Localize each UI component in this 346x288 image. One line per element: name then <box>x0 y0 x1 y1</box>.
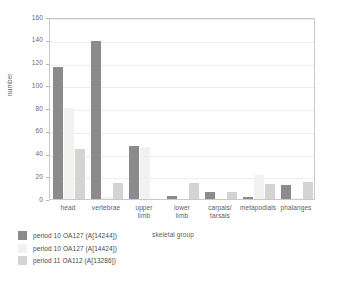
legend-swatch <box>18 231 27 240</box>
y-axis-tick-mark <box>46 18 49 19</box>
bar <box>113 183 123 199</box>
y-axis-tick-label: 160 <box>15 15 43 22</box>
y-axis-title: number <box>6 73 13 96</box>
legend-swatch <box>18 244 27 253</box>
y-axis-tick-label: 60 <box>15 128 43 135</box>
y-axis-tick-mark <box>46 155 49 156</box>
y-axis-tick-label: 120 <box>15 60 43 67</box>
legend-label: period 10 OA127 (A[14244]) <box>33 232 117 239</box>
y-axis-tick-mark <box>46 109 49 110</box>
bar <box>281 185 291 199</box>
bar <box>140 147 150 199</box>
bar <box>64 108 74 199</box>
bar <box>205 192 215 199</box>
x-axis-category-label: upperlimb <box>125 204 163 219</box>
y-axis-tick-mark <box>46 86 49 87</box>
bar <box>91 41 101 199</box>
y-axis-tick-label: 0 <box>15 197 43 204</box>
y-axis-tick-mark <box>46 132 49 133</box>
y-axis-tick-label: 140 <box>15 37 43 44</box>
bar-group <box>88 19 126 199</box>
legend-label: period 11 OA112 (A[13286]) <box>33 257 116 264</box>
bar-group <box>278 19 316 199</box>
bar <box>102 197 112 199</box>
legend-item[interactable]: period 11 OA112 (A[13286]) <box>18 256 117 265</box>
bar <box>189 183 199 199</box>
chart-legend: period 10 OA127 (A[14244])period 10 OA12… <box>18 231 117 265</box>
bar-group <box>240 19 278 199</box>
y-axis-tick-mark <box>46 177 49 178</box>
x-axis-category-label: phalanges <box>277 204 315 212</box>
bar-group <box>202 19 240 199</box>
bar <box>243 197 253 199</box>
x-axis-category-label: lowerlimb <box>163 204 201 219</box>
bar <box>254 175 264 199</box>
y-axis-tick-mark <box>46 41 49 42</box>
bar-group <box>50 19 88 199</box>
legend-item[interactable]: period 10 OA127 (A[14424]) <box>18 244 117 253</box>
x-axis-category-label: carpals/tarsals <box>201 204 239 219</box>
bar <box>167 196 177 199</box>
plot-area <box>49 18 315 200</box>
legend-item[interactable]: period 10 OA127 (A[14244]) <box>18 231 117 240</box>
bar <box>303 182 313 199</box>
bar-group <box>164 19 202 199</box>
y-axis-tick-mark <box>46 64 49 65</box>
bar <box>265 184 275 199</box>
bar <box>227 192 237 199</box>
bar <box>53 67 63 199</box>
bar-group <box>126 19 164 199</box>
y-axis-tick-label: 100 <box>15 83 43 90</box>
y-axis-tick-label: 20 <box>15 174 43 181</box>
y-axis-tick-label: 80 <box>15 106 43 113</box>
bar <box>129 146 139 199</box>
y-axis-tick-label: 40 <box>15 151 43 158</box>
bar <box>75 149 85 199</box>
bar <box>292 198 302 199</box>
x-axis-category-label: metapodials <box>239 204 277 212</box>
x-axis-category-label: head <box>49 204 87 212</box>
bar-chart: number 020406080100120140160 headvertebr… <box>0 0 346 288</box>
legend-swatch <box>18 256 27 265</box>
legend-label: period 10 OA127 (A[14424]) <box>33 245 117 252</box>
y-axis-tick-mark <box>46 200 49 201</box>
x-axis-category-label: vertebrae <box>87 204 125 212</box>
